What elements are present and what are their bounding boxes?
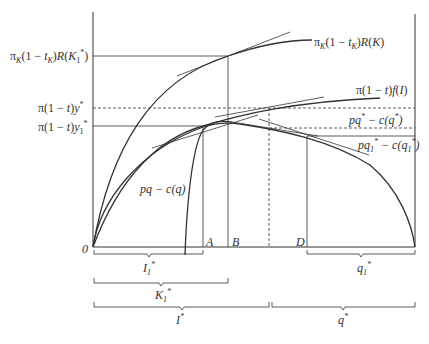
tangent-capital-return — [177, 32, 290, 76]
brace-label-I1: I1* — [143, 262, 155, 274]
brace-label-qstar: q* — [338, 314, 348, 326]
tangent-income-A — [152, 115, 258, 148]
tangent-income-dashed — [215, 97, 324, 117]
label-capital-return-curve: πK(1 − tK)R(K) — [314, 36, 384, 48]
label-profit-star1: pq1* − c(q1*) — [358, 139, 419, 151]
point-B-label: B — [232, 236, 239, 248]
brace-I1 — [94, 250, 203, 257]
point-A-label: A — [206, 236, 213, 248]
brace-label-q1: q1* — [357, 262, 371, 274]
origin-label: 0 — [82, 243, 88, 255]
brace-q1 — [307, 250, 415, 257]
label-profit-rising: pq − c(q) — [140, 183, 185, 195]
curve-capital-return — [93, 40, 312, 247]
brace-K1 — [94, 278, 228, 286]
brace-label-K1: K1* — [155, 289, 171, 301]
label-income-curve: π(1 − t)f(I) — [356, 84, 408, 96]
brace-qstar — [272, 302, 415, 310]
label-profit-star: pq* − c(q*) — [349, 114, 402, 126]
label-dashed-value: π(1 − t)y* — [38, 102, 84, 114]
brace-label-Istar: I* — [176, 314, 184, 326]
curve-income — [93, 98, 380, 247]
point-D-label: D — [296, 236, 305, 248]
label-top-value: πK(1 − tK)R(K1*) — [10, 50, 88, 62]
brace-Istar — [94, 302, 269, 310]
label-solid-value: π(1 − t)y1* — [38, 121, 88, 133]
